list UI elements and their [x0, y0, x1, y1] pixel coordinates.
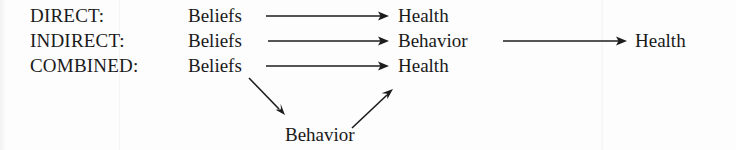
row-label-direct: DIRECT:: [30, 5, 104, 26]
arrow-combined-beliefs-to-health: [266, 62, 389, 71]
arrow-combined-behavior-to-health: [352, 89, 393, 128]
node-direct-health: Health: [398, 5, 449, 26]
node-indirect-beliefs: Beliefs: [188, 30, 242, 51]
row-label-indirect: INDIRECT:: [30, 30, 125, 51]
node-combined-health: Health: [398, 55, 449, 76]
row-label-combined: COMBINED:: [30, 55, 138, 76]
node-combined-behavior: Behavior: [285, 124, 355, 145]
causal-pathway-diagram: DIRECT: Beliefs Health INDIRECT: Beliefs…: [0, 0, 736, 150]
node-indirect-health: Health: [635, 30, 686, 51]
node-direct-beliefs: Beliefs: [188, 5, 242, 26]
arrow-direct-beliefs-to-health: [266, 12, 389, 21]
arrow-indirect-behavior-to-health: [503, 37, 627, 46]
arrow-indirect-beliefs-to-behavior: [268, 37, 389, 46]
arrow-combined-beliefs-to-behavior: [249, 78, 285, 115]
node-combined-beliefs: Beliefs: [188, 55, 242, 76]
node-indirect-behavior: Behavior: [398, 30, 468, 51]
diagram-canvas: DIRECT: Beliefs Health INDIRECT: Beliefs…: [0, 0, 736, 150]
